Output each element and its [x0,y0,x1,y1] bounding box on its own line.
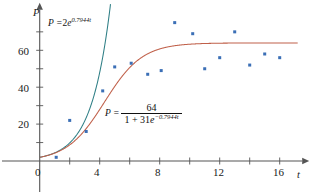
data-point [173,21,176,24]
data-point [101,89,104,92]
x-tick-label-8: 8 [155,167,161,178]
x-tick-label-16: 16 [273,167,284,178]
data-point [191,32,194,35]
x-tick-label-4: 4 [94,167,100,178]
exp-lhs: P = [48,18,62,28]
x-tick-label-0: 0 [35,167,41,178]
data-point [248,64,251,67]
y-axis-label: P [33,8,39,19]
data-point [130,62,133,65]
y-tick-label-60: 60 [18,46,29,57]
data-point [55,156,58,159]
data-point [68,119,71,122]
data-point [218,56,221,59]
logistic-fraction: 64 1 + 31e−0.7944t [121,103,181,125]
data-point [160,69,163,72]
data-point [278,56,281,59]
y-tick-label-20: 20 [18,119,29,130]
logistic-curve [40,43,298,157]
log-den-exponent: −0.7944t [155,113,179,120]
data-point [233,30,236,33]
log-numerator: 64 [121,103,181,113]
x-tick-label-12: 12 [213,167,224,178]
data-point [85,130,88,133]
chart-svg [0,0,313,194]
data-point [203,67,206,70]
log-denominator: 1 + 31e−0.7944t [121,113,181,125]
y-tick-label-40: 40 [18,83,29,94]
data-point [146,73,149,76]
log-den-prefix: 1 + 31 [124,114,150,125]
data-point [263,52,266,55]
log-lhs: P = [105,109,119,119]
exponential-equation-annotation: P =2e0.7944t [48,17,91,29]
exp-exponent: 0.7944t [71,16,91,23]
logistic-equation-annotation: P = 64 1 + 31e−0.7944t [105,103,182,125]
x-axis-arrow [302,158,309,164]
data-point [113,65,116,68]
x-axis-label: t [297,170,300,181]
chart-figure: P t 0 4 8 12 16 20 40 60 P =2e0.7944t P … [0,0,313,194]
